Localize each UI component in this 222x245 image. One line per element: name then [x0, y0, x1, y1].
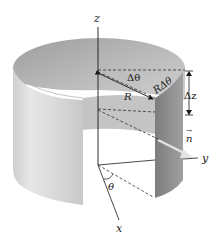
delta-z-arrowhead-bottom	[186, 110, 192, 115]
y-axis-label: y	[201, 152, 209, 165]
normal-vector-arrow-label: →	[186, 127, 192, 135]
y-axis-outer	[183, 158, 198, 159]
radius-label: R	[123, 91, 132, 102]
cylinder-opening	[83, 129, 155, 205]
theta-label: θ	[108, 181, 114, 192]
delta-z-arrowhead-top	[186, 71, 192, 76]
cylinder-surface-diagram: z y x θ Δθ R RΔθ Δz n →	[0, 0, 222, 245]
z-axis-label: z	[93, 12, 100, 25]
delta-theta-label: Δθ	[127, 72, 140, 83]
x-axis-label: x	[116, 222, 123, 235]
delta-z-label: Δz	[184, 90, 197, 101]
